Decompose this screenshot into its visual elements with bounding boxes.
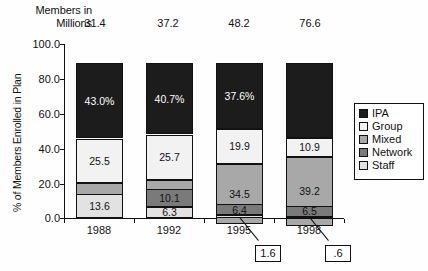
bar-segment-1995-ipa[interactable]: 37.6% <box>216 63 263 129</box>
bar-segment-1998-network[interactable]: 6.5 <box>286 206 333 217</box>
bar-1992[interactable]: 40.7% 25.7 17.1 10.1 6.3 <box>146 43 193 218</box>
y-tick-label-80: 80.0 <box>26 73 60 85</box>
y-tick-20 <box>60 184 64 185</box>
callout-1998-staff: .6 <box>325 245 351 262</box>
x-tick-label-1992: 1992 <box>134 224 204 236</box>
members-value-1988: 31.4 <box>65 17 125 29</box>
x-tick-0 <box>64 219 65 223</box>
y-tick-60 <box>60 114 64 115</box>
y-tick-label-100: 100.0 <box>26 38 60 50</box>
legend-swatch-staff <box>359 161 368 170</box>
bar-segment-1988-ipa[interactable]: 43.0% <box>76 63 123 138</box>
x-tick-label-1988: 1988 <box>64 224 134 236</box>
bar-segment-1992-ipa[interactable]: 40.7% <box>146 63 193 134</box>
y-tick-80 <box>60 79 64 80</box>
bar-segment-1992-network[interactable]: 10.1 <box>146 189 193 207</box>
bar-segment-1988-staff[interactable]: 13.6 <box>76 194 123 218</box>
legend-item-mixed[interactable]: Mixed <box>359 133 419 146</box>
y-tick-100 <box>60 44 64 45</box>
legend-item-ipa[interactable]: IPA <box>359 107 419 120</box>
chart-canvas: Members in Millions 31.4 37.2 48.2 76.6 … <box>0 0 428 271</box>
bar-segment-1995-group[interactable]: 19.9 <box>216 129 263 164</box>
bar-segment-1995-network[interactable]: 6.4 <box>216 204 263 215</box>
legend-swatch-group <box>359 122 368 131</box>
bar-segment-1992-staff[interactable]: 6.3 <box>146 207 193 218</box>
x-tick-label-1995: 1995 <box>204 224 274 236</box>
y-axis-title: % of Members Enrolled in Plan <box>11 74 23 212</box>
x-tick-4 <box>344 219 345 223</box>
x-tick-2 <box>204 219 205 223</box>
y-tick-label-60: 60.0 <box>26 108 60 120</box>
legend-swatch-mixed <box>359 135 368 144</box>
legend-label-ipa: IPA <box>372 108 389 119</box>
members-value-1992: 37.2 <box>138 17 198 29</box>
legend-label-group: Group <box>372 121 403 132</box>
callout-1995-staff: 1.6 <box>255 245 281 262</box>
legend-swatch-network <box>359 148 368 157</box>
bar-segment-1998-group[interactable]: 10.9 <box>286 138 333 157</box>
legend-label-staff: Staff <box>372 160 394 171</box>
legend: IPA Group Mixed Network Staff <box>354 103 424 180</box>
bar-1995[interactable]: 37.6% 19.9 34.5 6.4 <box>216 43 263 218</box>
legend-label-network: Network <box>372 147 412 158</box>
bar-segment-1998-ipa[interactable] <box>286 63 333 138</box>
bar-segment-1992-group[interactable]: 25.7 <box>146 135 193 180</box>
legend-label-mixed: Mixed <box>372 134 401 145</box>
x-tick-3 <box>274 219 275 223</box>
y-tick-label-40: 40.0 <box>26 143 60 155</box>
members-value-1995: 48.2 <box>209 17 269 29</box>
bar-1988[interactable]: 43.0% 25.5 13.6 <box>76 43 123 218</box>
legend-item-staff[interactable]: Staff <box>359 159 419 172</box>
legend-swatch-ipa <box>359 109 368 118</box>
bar-1998[interactable]: 10.9 39.2 6.5 <box>286 43 333 218</box>
y-tick-label-0: 0.0 <box>26 212 60 224</box>
x-tick-1 <box>134 219 135 223</box>
y-axis-line <box>64 44 65 219</box>
y-tick-40 <box>60 149 64 150</box>
legend-item-network[interactable]: Network <box>359 146 419 159</box>
members-value-1998: 76.6 <box>280 17 340 29</box>
y-tick-label-20: 20.0 <box>26 178 60 190</box>
bar-segment-1988-group[interactable]: 25.5 <box>76 139 123 184</box>
legend-item-group[interactable]: Group <box>359 120 419 133</box>
